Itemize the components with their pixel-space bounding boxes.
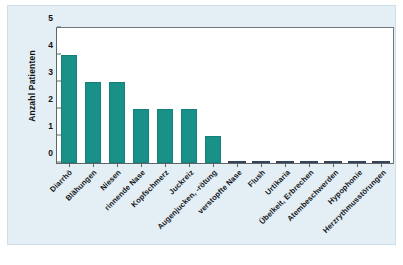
bar-cell (249, 28, 273, 163)
y-axis-tick-mark (57, 27, 61, 28)
y-axis-tick-mark (57, 162, 61, 163)
bar-cell (297, 28, 321, 163)
y-axis-title: Anzahl Patienten (27, 31, 37, 141)
y-axis-tick-label: 5 (48, 13, 57, 23)
bar-cell (81, 28, 105, 163)
x-axis-tick-label: verstopfte Nase (196, 168, 244, 216)
y-axis-tick-label: 3 (48, 67, 57, 77)
bar (157, 109, 173, 163)
bar-cell (153, 28, 177, 163)
bar-cell (201, 28, 225, 163)
bar (109, 82, 125, 163)
x-axis-tick-label: Flush (247, 168, 268, 189)
bar-cell (177, 28, 201, 163)
bar (133, 109, 149, 163)
bar (205, 136, 221, 163)
y-axis-tick-mark (57, 81, 61, 82)
y-axis-tick-mark (57, 108, 61, 109)
y-axis-tick-label: 2 (48, 94, 57, 104)
y-axis-tick-label: 0 (48, 148, 57, 158)
bar-cell (57, 28, 81, 163)
y-axis-tick-mark (57, 135, 61, 136)
bar-cell (369, 28, 393, 163)
bar-cell (321, 28, 345, 163)
x-axis-tick-labels: DiarrhöBlähungenNiesenrinnende NaseKopfs… (56, 165, 394, 249)
plot-area: 012345 (56, 27, 394, 164)
bar-cell (129, 28, 153, 163)
chart-figure: Anzahl Patienten 012345 DiarrhöBlähungen… (0, 0, 403, 265)
bar-cell (225, 28, 249, 163)
bar-cell (105, 28, 129, 163)
bar (61, 55, 77, 163)
bar-cell (273, 28, 297, 163)
bar-series (57, 28, 393, 163)
bar (85, 82, 101, 163)
y-axis-tick-mark (57, 54, 61, 55)
bar-cell (345, 28, 369, 163)
y-axis-tick-label: 1 (48, 121, 57, 131)
slide-panel: Anzahl Patienten 012345 DiarrhöBlähungen… (7, 5, 396, 245)
y-axis-tick-label: 4 (48, 40, 57, 50)
bar (181, 109, 197, 163)
